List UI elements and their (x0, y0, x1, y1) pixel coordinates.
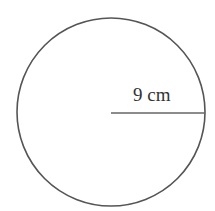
circle (17, 18, 205, 206)
circle-diagram (0, 0, 215, 211)
radius-label: 9 cm (133, 84, 170, 106)
